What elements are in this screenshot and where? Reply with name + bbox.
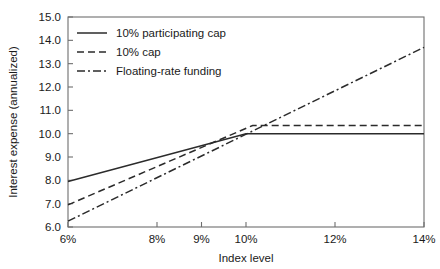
y-tick-label: 12.0 (39, 81, 61, 93)
x-tick-label: 6% (60, 233, 77, 245)
y-tick-label: 11.0 (39, 104, 61, 116)
y-tick-label: 10.0 (39, 128, 61, 140)
y-axis-ticks (68, 17, 73, 227)
x-tick-label: 10% (234, 233, 257, 245)
x-axis-ticks (68, 222, 424, 227)
chart-container: 6%8%9%10%12%14% 6.07.08.09.010.011.012.0… (0, 0, 440, 269)
y-tick-label: 7.0 (45, 198, 61, 210)
x-tick-label: 14% (412, 233, 435, 245)
legend-label: 10% cap (116, 46, 161, 58)
series-line (68, 134, 424, 182)
x-axis-tick-labels: 6%8%9%10%12%14% (60, 233, 436, 245)
y-tick-label: 13.0 (39, 58, 61, 70)
y-tick-label: 8.0 (45, 174, 61, 186)
y-tick-label: 14.0 (39, 34, 61, 46)
series-line (68, 126, 424, 205)
legend-label: 10% participating cap (116, 27, 226, 39)
chart-legend: 10% participating cap10% capFloating-rat… (77, 27, 226, 77)
x-tick-label: 8% (149, 233, 166, 245)
x-tick-label: 9% (193, 233, 210, 245)
y-tick-label: 6.0 (45, 221, 61, 233)
y-tick-label: 15.0 (39, 11, 61, 23)
line-chart: 6%8%9%10%12%14% 6.07.08.09.010.011.012.0… (0, 0, 440, 269)
x-axis-title: Index level (219, 252, 274, 264)
legend-label: Floating-rate funding (116, 65, 221, 77)
y-axis-tick-labels: 6.07.08.09.010.011.012.013.014.015.0 (39, 11, 61, 233)
y-axis-title: Interest expense (annualized) (7, 46, 19, 198)
x-tick-label: 12% (323, 233, 346, 245)
y-tick-label: 9.0 (45, 151, 61, 163)
